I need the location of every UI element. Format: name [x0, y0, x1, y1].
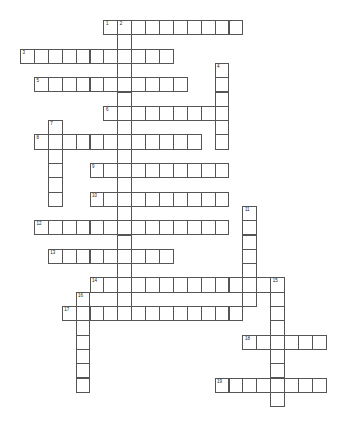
crossword-cell[interactable]: [145, 77, 160, 92]
crossword-cell[interactable]: [159, 220, 174, 235]
crossword-cell[interactable]: [103, 220, 118, 235]
crossword-cell[interactable]: [76, 220, 91, 235]
crossword-cell[interactable]: [187, 277, 202, 292]
crossword-cell[interactable]: [215, 220, 230, 235]
crossword-cell[interactable]: [103, 134, 118, 149]
crossword-cell[interactable]: [270, 292, 285, 307]
crossword-cell[interactable]: [117, 292, 132, 307]
crossword-cell[interactable]: [201, 106, 216, 121]
crossword-cell[interactable]: [229, 378, 244, 393]
crossword-cell[interactable]: [76, 77, 91, 92]
crossword-cell[interactable]: [215, 20, 230, 35]
crossword-cell[interactable]: [48, 149, 63, 164]
crossword-cell[interactable]: [117, 220, 132, 235]
crossword-cell[interactable]: [173, 163, 188, 178]
crossword-cell[interactable]: 15: [270, 277, 285, 292]
crossword-cell[interactable]: 17: [62, 306, 77, 321]
crossword-cell[interactable]: [159, 163, 174, 178]
crossword-cell[interactable]: [131, 306, 146, 321]
crossword-cell[interactable]: [173, 192, 188, 207]
crossword-cell[interactable]: [117, 263, 132, 278]
crossword-cell[interactable]: [159, 106, 174, 121]
crossword-cell[interactable]: 11: [242, 206, 257, 221]
crossword-cell[interactable]: [173, 106, 188, 121]
crossword-cell[interactable]: [173, 277, 188, 292]
crossword-cell[interactable]: [312, 335, 327, 350]
crossword-cell[interactable]: [270, 378, 285, 393]
crossword-cell[interactable]: [117, 149, 132, 164]
crossword-cell[interactable]: [215, 306, 230, 321]
crossword-cell[interactable]: [242, 277, 257, 292]
crossword-cell[interactable]: [103, 49, 118, 64]
crossword-cell[interactable]: [117, 163, 132, 178]
crossword-cell[interactable]: [187, 192, 202, 207]
crossword-cell[interactable]: [117, 277, 132, 292]
crossword-cell[interactable]: [270, 306, 285, 321]
crossword-cell[interactable]: [131, 192, 146, 207]
crossword-cell[interactable]: [159, 249, 174, 264]
crossword-cell[interactable]: [76, 320, 91, 335]
crossword-cell[interactable]: [76, 335, 91, 350]
crossword-cell[interactable]: [187, 306, 202, 321]
crossword-cell[interactable]: [48, 220, 63, 235]
crossword-cell[interactable]: [145, 220, 160, 235]
crossword-cell[interactable]: [103, 277, 118, 292]
crossword-cell[interactable]: [173, 77, 188, 92]
crossword-cell[interactable]: [90, 49, 105, 64]
crossword-cell[interactable]: [270, 392, 285, 407]
crossword-cell[interactable]: [117, 34, 132, 49]
crossword-cell[interactable]: [117, 306, 132, 321]
crossword-cell[interactable]: [159, 192, 174, 207]
crossword-cell[interactable]: [48, 177, 63, 192]
crossword-cell[interactable]: [187, 106, 202, 121]
crossword-cell[interactable]: [215, 192, 230, 207]
crossword-cell[interactable]: [62, 77, 77, 92]
crossword-cell[interactable]: [131, 249, 146, 264]
crossword-cell[interactable]: [145, 49, 160, 64]
crossword-cell[interactable]: [103, 192, 118, 207]
crossword-cell[interactable]: [76, 378, 91, 393]
crossword-cell[interactable]: [159, 77, 174, 92]
crossword-cell[interactable]: [145, 306, 160, 321]
crossword-cell[interactable]: 3: [20, 49, 35, 64]
crossword-cell[interactable]: [62, 220, 77, 235]
crossword-cell[interactable]: [270, 320, 285, 335]
crossword-cell[interactable]: [103, 77, 118, 92]
crossword-cell[interactable]: [159, 277, 174, 292]
crossword-cell[interactable]: [131, 20, 146, 35]
crossword-cell[interactable]: [117, 77, 132, 92]
crossword-cell[interactable]: [215, 134, 230, 149]
crossword-cell[interactable]: 10: [90, 192, 105, 207]
crossword-cell[interactable]: [284, 378, 299, 393]
crossword-cell[interactable]: [242, 220, 257, 235]
crossword-cell[interactable]: 9: [90, 163, 105, 178]
crossword-cell[interactable]: [103, 306, 118, 321]
crossword-cell[interactable]: [256, 277, 271, 292]
crossword-cell[interactable]: [173, 306, 188, 321]
crossword-cell[interactable]: [173, 20, 188, 35]
crossword-cell[interactable]: [173, 134, 188, 149]
crossword-cell[interactable]: [145, 163, 160, 178]
crossword-cell[interactable]: [201, 20, 216, 35]
crossword-cell[interactable]: 18: [242, 335, 257, 350]
crossword-cell[interactable]: [215, 106, 230, 121]
crossword-cell[interactable]: [76, 249, 91, 264]
crossword-cell[interactable]: 5: [34, 77, 49, 92]
crossword-cell[interactable]: [187, 220, 202, 235]
crossword-cell[interactable]: [76, 134, 91, 149]
crossword-cell[interactable]: 1: [103, 20, 118, 35]
crossword-cell[interactable]: [117, 249, 132, 264]
crossword-cell[interactable]: [312, 378, 327, 393]
crossword-cell[interactable]: [145, 277, 160, 292]
crossword-cell[interactable]: [159, 20, 174, 35]
crossword-cell[interactable]: [187, 163, 202, 178]
crossword-cell[interactable]: [145, 106, 160, 121]
crossword-cell[interactable]: [34, 49, 49, 64]
crossword-cell[interactable]: [48, 163, 63, 178]
crossword-cell[interactable]: [159, 49, 174, 64]
crossword-cell[interactable]: [201, 306, 216, 321]
crossword-cell[interactable]: 16: [76, 292, 91, 307]
crossword-cell[interactable]: [187, 134, 202, 149]
crossword-cell[interactable]: 4: [215, 63, 230, 78]
crossword-cell[interactable]: 14: [90, 277, 105, 292]
